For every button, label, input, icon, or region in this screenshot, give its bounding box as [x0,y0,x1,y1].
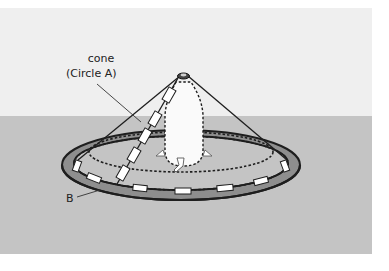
diagram-canvas [0,0,389,271]
ring-label-text: B [66,192,74,205]
cone-label-line2: (Circle A) [66,67,117,80]
cone-label: cone [78,52,124,65]
ring-b-label: B [66,192,74,205]
circle-a-label: (Circle A) [66,67,117,80]
cone-label-line1: cone [88,52,115,65]
cone-diagram: cone (Circle A) B [0,0,389,271]
